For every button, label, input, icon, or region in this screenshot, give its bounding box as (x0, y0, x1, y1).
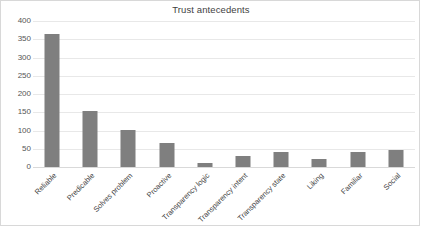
bar[interactable] (388, 150, 403, 167)
y-axis-tick-label: 0 (5, 162, 31, 171)
x-axis-label-slot: Solves problem (109, 169, 147, 227)
bar-chart: Trust antecedents 4003503002502001501005… (0, 0, 420, 226)
y-axis-tick-label: 300 (5, 53, 31, 62)
axis-baseline (33, 167, 415, 168)
bar[interactable] (197, 163, 212, 167)
y-axis-tick-label: 200 (5, 89, 31, 98)
x-axis-label-slot: Liking (300, 169, 338, 227)
bar[interactable] (350, 152, 365, 167)
x-axis-tick-label: Familiar (339, 171, 364, 196)
bar[interactable] (159, 143, 174, 167)
bar-slot (224, 21, 262, 167)
x-axis-label-slot: Social (377, 169, 415, 227)
bar[interactable] (121, 130, 136, 167)
x-axis-label-slot: Reliable (33, 169, 71, 227)
bar-slot (262, 21, 300, 167)
y-axis-tick-label: 100 (5, 126, 31, 135)
bar[interactable] (312, 159, 327, 167)
bar-slot (148, 21, 186, 167)
y-axis: 400350300250200150100500 (1, 21, 31, 167)
bar-slot (339, 21, 377, 167)
bar-slot (300, 21, 338, 167)
y-axis-tick-label: 350 (5, 34, 31, 43)
bar-slot (71, 21, 109, 167)
x-axis-tick-label: Liking (306, 171, 326, 191)
bar-slot (33, 21, 71, 167)
y-axis-tick-label: 150 (5, 107, 31, 116)
y-axis-tick-label: 250 (5, 71, 31, 80)
bar[interactable] (45, 34, 60, 167)
plot-area (33, 21, 415, 167)
bar-slot (109, 21, 147, 167)
x-axis-label-slot: Transparency state (262, 169, 300, 227)
x-axis-tick-label: Reliable (33, 171, 59, 197)
bar[interactable] (274, 152, 289, 167)
bar[interactable] (236, 156, 251, 167)
y-axis-tick-label: 400 (5, 16, 31, 25)
y-axis-tick-label: 50 (5, 144, 31, 153)
x-axis-tick-label: Social (381, 171, 402, 192)
chart-title: Trust antecedents (1, 4, 421, 15)
x-axis-label-slot: Familiar (339, 169, 377, 227)
bar-slot (186, 21, 224, 167)
bar[interactable] (83, 111, 98, 167)
bar-slot (377, 21, 415, 167)
x-axis-tick-label: Proactive (145, 171, 173, 199)
